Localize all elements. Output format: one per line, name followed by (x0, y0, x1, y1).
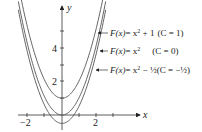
x-tick-label-neg2: −2 (20, 117, 31, 128)
x-axis (18, 113, 140, 117)
annotation-c0: F(x)= x2(C = 0) (109, 46, 178, 56)
antiderivative-family-chart: −2 2 2 4 x y F(x)= x2 + 1(C = 1) F(x)= x… (0, 0, 202, 132)
y-axis (60, 6, 64, 130)
y-tick-label-4: 4 (52, 43, 57, 54)
x-axis-label: x (142, 109, 148, 120)
x-tick-label-2: 2 (93, 117, 98, 128)
annotation-cminus-half: F(x)= x2 − ½(C = −½) (109, 65, 190, 75)
annotation-c1: F(x)= x2 + 1(C = 1) (109, 28, 183, 38)
y-axis-label: y (66, 2, 72, 13)
y-tick-label-2: 2 (52, 76, 57, 87)
